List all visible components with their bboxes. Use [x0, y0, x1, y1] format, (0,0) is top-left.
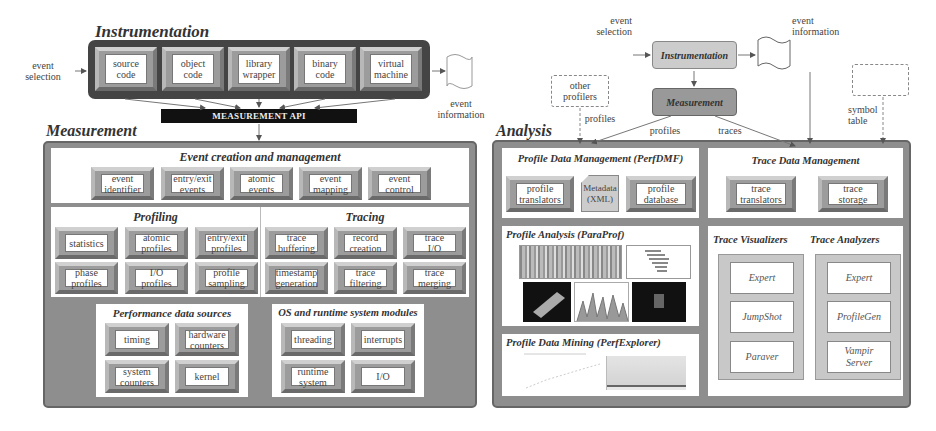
source-hardware-counters[interactable]: hardware counters: [175, 323, 239, 356]
right-event-selection-label: event selection: [582, 15, 632, 37]
paraprof-panel: Profile Analysis (ParaProf): [502, 226, 699, 326]
metadata-xml[interactable]: Metadata (XML): [581, 175, 619, 212]
profiling-tracing-panel: Profiling Tracing statistics atomic prof…: [51, 207, 469, 297]
tracing-trace-merging[interactable]: trace merging: [403, 262, 466, 294]
symbol-table-label: symbol table: [848, 104, 888, 126]
profiling-title: Profiling: [51, 210, 260, 225]
os-threading[interactable]: threading: [281, 323, 345, 356]
os-modules-panel: OS and runtime system modules threading …: [272, 304, 424, 397]
event-creation-title: Event creation and management: [51, 150, 469, 165]
right-instrumentation-node[interactable]: Instrumentation: [652, 41, 737, 69]
perf-sources-panel: Performance data sources timing hardware…: [96, 304, 248, 397]
measurement-api-label: MEASUREMENT API: [212, 111, 306, 121]
perfdmf-panel: Profile Data Management (PerfDMF) profil…: [502, 148, 699, 218]
trace-tools-panel: Trace Visualizers Trace Analyzers Expert…: [708, 226, 903, 396]
tracing-title: Tracing: [261, 210, 469, 225]
tracing-trace-io[interactable]: trace I/O: [403, 227, 466, 259]
instr-library-wrapper[interactable]: library wrapper: [228, 47, 290, 91]
source-kernel[interactable]: kernel: [175, 360, 239, 393]
event-selection-label: event selection: [12, 60, 74, 82]
event-mapping[interactable]: event mapping: [299, 167, 362, 200]
right-instrumentation-label: Instrumentation: [661, 50, 728, 61]
instrumentation-box: source code object code library wrapper …: [88, 40, 430, 99]
tracing-record-creation[interactable]: record creation: [334, 227, 397, 259]
tool-paraver[interactable]: Paraver: [730, 341, 794, 373]
perfexplorer-title: Profile Data Mining (PerfExplorer): [506, 337, 661, 348]
profiling-io-profiles[interactable]: I/O profiles: [125, 262, 188, 294]
trace-analyzers-title: Trace Analyzers: [810, 234, 880, 245]
os-modules-title: OS and runtime system modules: [272, 307, 424, 318]
measurement-box: Event creation and management event iden…: [43, 141, 477, 408]
source-system-counters[interactable]: system counters: [105, 360, 169, 393]
profile-translators[interactable]: profile translators: [506, 176, 574, 212]
profile-database[interactable]: profile database: [626, 176, 696, 212]
perf-sources-title: Performance data sources: [96, 307, 248, 319]
paraprof-screenshot-5: [632, 282, 686, 322]
analysis-box: Profile Data Management (PerfDMF) profil…: [492, 140, 911, 408]
edge-label-profiles-other: profiles: [580, 113, 620, 124]
instr-source-code[interactable]: source code: [95, 47, 157, 91]
instr-binary-code[interactable]: binary code: [294, 47, 356, 91]
perfexplorer-panel: Profile Data Mining (PerfExplorer): [502, 334, 699, 396]
trace-analyzers-group: Expert ProfileGen Vampir Server: [815, 254, 901, 380]
paraprof-screenshot-1: [519, 245, 622, 279]
event-identifier[interactable]: event identifier: [91, 167, 154, 200]
event-creation-panel: Event creation and management event iden…: [51, 148, 469, 203]
trace-visualizers-group: Expert JumpShot Paraver: [718, 254, 804, 380]
edge-label-profiles: profiles: [645, 125, 685, 136]
tool-jumpshot[interactable]: JumpShot: [730, 301, 794, 333]
tool-vampir-server[interactable]: Vampir Server: [827, 341, 891, 373]
right-measurement-node[interactable]: Measurement: [652, 88, 737, 116]
trace-dm-panel: Trace Data Management trace translators …: [708, 148, 903, 218]
event-information-label: event information: [430, 98, 492, 120]
profiling-profile-sampling[interactable]: profile sampling: [195, 262, 258, 294]
tracing-trace-buffering[interactable]: trace buffering: [265, 227, 328, 259]
tool-profilegen[interactable]: ProfileGen: [827, 301, 891, 333]
edge-label-traces: traces: [710, 125, 750, 136]
atomic-events[interactable]: atomic events: [230, 167, 293, 200]
analysis-title: Analysis: [496, 122, 552, 140]
paraprof-screenshot-3: [523, 282, 571, 322]
os-io[interactable]: I/O: [351, 360, 415, 393]
entry-exit-events[interactable]: entry/exit events: [161, 167, 224, 200]
tracing-timestamp-generation[interactable]: timestamp generation: [265, 262, 328, 294]
event-information-doc-icon: [757, 36, 791, 70]
measurement-api-bar: MEASUREMENT API: [161, 109, 357, 123]
perfexplorer-chart-2: [606, 356, 686, 390]
trace-visualizers-title: Trace Visualizers: [713, 234, 788, 245]
source-timing[interactable]: timing: [105, 323, 169, 356]
profiling-phase-profiles[interactable]: phase profiles: [55, 262, 118, 294]
profiling-statistics[interactable]: statistics: [55, 227, 118, 259]
profiling-entry-exit-profiles[interactable]: entry/exit profiles: [195, 227, 258, 259]
event-control[interactable]: event control: [368, 167, 431, 200]
right-event-information-label: event information: [792, 15, 862, 37]
paraprof-screenshot-2: [626, 245, 691, 279]
profiling-atomic-profiles[interactable]: atomic profiles: [125, 227, 188, 259]
paraprof-screenshot-4: [574, 282, 629, 322]
trace-translators[interactable]: trace translators: [726, 176, 796, 212]
measurement-title: Measurement: [46, 122, 137, 140]
other-profilers-box[interactable]: other profilers: [551, 75, 609, 107]
symbol-table-box[interactable]: [852, 64, 909, 96]
tool-expert[interactable]: Expert: [827, 262, 891, 294]
trace-storage[interactable]: trace storage: [818, 176, 888, 212]
instrumentation-title: Instrumentation: [95, 22, 209, 42]
tool-vampir[interactable]: Expert: [730, 262, 794, 294]
trace-dm-title: Trace Data Management: [708, 155, 903, 166]
instr-object-code[interactable]: object code: [162, 47, 224, 91]
os-interrupts[interactable]: interrupts: [351, 323, 415, 356]
right-measurement-label: Measurement: [666, 97, 723, 108]
perfexplorer-chart-1: [516, 352, 602, 392]
paraprof-title: Profile Analysis (ParaProf): [506, 229, 625, 240]
perfdmf-title: Profile Data Management (PerfDMF): [502, 153, 699, 164]
instr-virtual-machine[interactable]: virtual machine: [360, 47, 422, 91]
tracing-trace-filtering[interactable]: trace filtering: [334, 262, 397, 294]
os-runtime-system[interactable]: runtime system: [281, 360, 345, 393]
